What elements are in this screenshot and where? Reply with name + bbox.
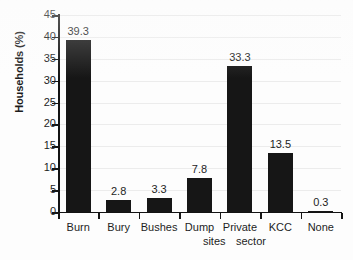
- bar-value-label: 2.8: [96, 186, 142, 197]
- x-axis-line: [58, 212, 342, 214]
- bar: [268, 153, 293, 212]
- bar: [147, 198, 172, 212]
- y-tick-label: 5: [16, 184, 56, 195]
- y-axis-line: [58, 14, 60, 213]
- y-tick-label: 20: [16, 118, 56, 129]
- y-tick-label: 10: [16, 162, 56, 173]
- bar-value-label: 33.3: [217, 52, 263, 63]
- x-category-label: None: [290, 221, 352, 235]
- bar: [106, 200, 131, 212]
- bar-value-label: 0.3: [298, 197, 344, 208]
- gridline: [58, 124, 341, 125]
- gridline: [58, 81, 341, 82]
- y-tick-label: 45: [16, 9, 56, 20]
- x-tick-mark: [341, 213, 343, 219]
- gridline: [58, 103, 341, 104]
- x-tick-mark: [301, 213, 303, 219]
- y-tick-label: 15: [16, 140, 56, 151]
- plot-area: [58, 15, 341, 212]
- gridline: [58, 37, 341, 38]
- bar: [66, 40, 91, 212]
- bar: [187, 178, 212, 212]
- x-tick-mark: [58, 213, 60, 219]
- bar-value-label: 3.3: [136, 184, 182, 195]
- bar-value-label: 7.8: [177, 164, 223, 175]
- y-tick-label: 0: [16, 206, 56, 217]
- gridline: [58, 15, 341, 16]
- x-category-label-line: sector: [209, 235, 271, 249]
- bar-value-label: 13.5: [257, 139, 303, 150]
- y-tick-label: 25: [16, 97, 56, 108]
- y-tick-label: 40: [16, 31, 56, 42]
- bar-value-label: 39.3: [55, 26, 101, 37]
- x-tick-mark: [139, 213, 141, 219]
- y-tick-label: 35: [16, 53, 56, 64]
- bar: [227, 66, 252, 212]
- x-category-label-line: Bury: [107, 221, 130, 233]
- x-tick-mark: [260, 213, 262, 219]
- gridline: [58, 59, 341, 60]
- y-tick-label: 30: [16, 75, 56, 86]
- x-category-label-line: Burn: [67, 221, 90, 233]
- x-tick-mark: [98, 213, 100, 219]
- x-tick-mark: [179, 213, 181, 219]
- x-category-label-line: None: [308, 221, 334, 233]
- x-category-label-line: KCC: [269, 221, 292, 233]
- x-tick-mark: [220, 213, 222, 219]
- bar-chart-figure: Households (%) 454035302520151050 BurnBu…: [0, 0, 353, 260]
